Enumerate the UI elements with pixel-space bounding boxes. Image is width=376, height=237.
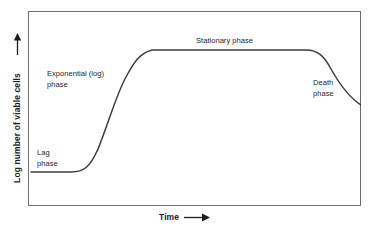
annotation-stationary-phase: Stationary phase [196, 35, 253, 46]
growth-curve-line [28, 11, 361, 206]
annotation-lag-phase: Lag phase [37, 147, 58, 169]
arrow-right-icon [184, 213, 210, 222]
y-axis-label: Log number of viable cells [12, 73, 22, 183]
arrow-up-icon [13, 33, 22, 55]
annotation-exponential-phase: Exponential (log) phase [47, 68, 104, 90]
x-axis-label: Time [159, 212, 179, 222]
x-axis-label-group: Time [159, 212, 210, 222]
growth-curve-figure: Log number of viable cells Time Lag phas… [0, 0, 376, 237]
annotation-death-phase: Death phase [313, 77, 334, 99]
